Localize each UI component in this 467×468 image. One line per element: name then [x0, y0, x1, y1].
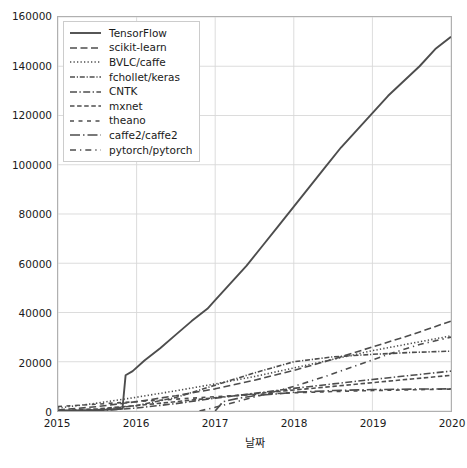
legend-item-label: fchollet/keras: [109, 72, 180, 83]
y-tick-label: 20000: [2, 358, 52, 368]
y-tick-label: 160000: [2, 11, 52, 21]
x-tick-label: 2015: [27, 417, 87, 429]
legend-item-label: CNTK: [109, 86, 138, 97]
legend-item: BVLC/caffe: [69, 55, 192, 70]
legend-item: mxnet: [69, 99, 192, 114]
legend-item-label: pytorch/pytorch: [109, 145, 192, 156]
legend-line-sample: [69, 144, 102, 156]
legend-item: caffe2/caffe2: [69, 128, 192, 143]
legend-line-sample: [69, 56, 102, 68]
y-tick-label: 140000: [2, 61, 52, 71]
x-axis-label: 날짜: [57, 434, 452, 450]
y-tick-label: 0: [2, 407, 52, 417]
chart-legend: TensorFlowscikit-learnBVLC/caffefchollet…: [63, 21, 200, 162]
y-tick-label: 40000: [2, 308, 52, 318]
legend-line-sample: [69, 115, 102, 127]
y-tick-label: 80000: [2, 209, 52, 219]
legend-item-label: theano: [109, 115, 146, 126]
x-tick-label: 2016: [106, 417, 166, 429]
legend-line-sample: [69, 100, 102, 112]
y-axis-tick-labels: 0200004000060000800001000001200001400001…: [0, 16, 52, 412]
legend-item: pytorch/pytorch: [69, 143, 192, 158]
chart-figure: 0200004000060000800001000001200001400001…: [0, 0, 467, 468]
legend-line-sample: [69, 86, 102, 98]
legend-item: theano: [69, 114, 192, 129]
legend-line-sample: [69, 71, 102, 83]
x-axis-tick-labels: 201520162017201820192020: [0, 417, 467, 433]
legend-item-label: mxnet: [109, 101, 143, 112]
series-line: [199, 337, 451, 411]
legend-item: CNTK: [69, 84, 192, 99]
legend-line-sample: [69, 27, 102, 39]
legend-item-label: caffe2/caffe2: [109, 130, 178, 141]
legend-item: TensorFlow: [69, 26, 192, 41]
series-line: [215, 389, 451, 411]
y-tick-label: 60000: [2, 259, 52, 269]
legend-line-sample: [69, 42, 102, 54]
legend-item: scikit-learn: [69, 41, 192, 56]
x-tick-label: 2019: [343, 417, 403, 429]
x-tick-label: 2020: [422, 417, 467, 429]
legend-line-sample: [69, 129, 102, 141]
x-tick-label: 2017: [185, 417, 245, 429]
legend-item: fchollet/keras: [69, 70, 192, 85]
x-tick-label: 2018: [264, 417, 324, 429]
legend-item-label: scikit-learn: [109, 42, 167, 53]
y-tick-label: 120000: [2, 110, 52, 120]
legend-item-label: TensorFlow: [109, 28, 167, 39]
legend-item-label: BVLC/caffe: [109, 57, 166, 68]
y-tick-label: 100000: [2, 160, 52, 170]
